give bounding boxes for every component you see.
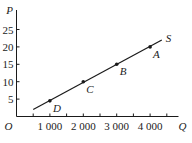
x-tick-label: 4 000 <box>138 120 163 132</box>
y-axis-label: P <box>5 4 13 16</box>
point-label: B <box>120 65 127 77</box>
y-tick-label: 15 <box>3 58 15 70</box>
x-tick-label: 2 000 <box>71 120 96 132</box>
point-label: D <box>52 102 61 114</box>
y-tick-label: 25 <box>3 24 15 36</box>
data-point <box>148 45 152 49</box>
point-label: C <box>86 83 94 95</box>
y-tick-label: 5 <box>8 93 14 105</box>
point-label: A <box>152 48 160 60</box>
series-label: S <box>166 32 172 44</box>
data-point <box>82 80 86 84</box>
x-axis-label: Q <box>179 120 187 132</box>
origin-label: O <box>5 120 13 132</box>
y-tick-label: 10 <box>3 76 15 88</box>
x-tick-label: 1 000 <box>38 120 63 132</box>
data-point <box>115 63 119 67</box>
data-point <box>48 99 52 103</box>
supply-curve-chart: 5101520251 0002 0003 0004 000PQOSDCBA <box>0 0 192 143</box>
x-tick-label: 3 000 <box>104 120 129 132</box>
y-tick-label: 20 <box>3 41 15 53</box>
supply-line <box>33 40 162 110</box>
